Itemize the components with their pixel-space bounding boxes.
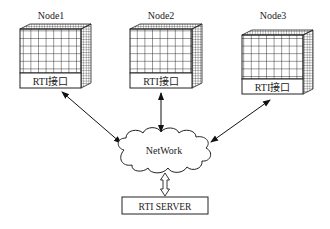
network-label: NetWork (146, 145, 182, 156)
arrow-node1-network (62, 92, 121, 143)
node1-top-face (20, 24, 91, 29)
node1: Node1 RTI接口 (20, 10, 91, 88)
node3-title: Node3 (260, 10, 287, 21)
node2-rti-interface-label: RTI接口 (143, 75, 179, 87)
node1-side-face (81, 24, 91, 88)
node3: Node3 RTI接口 (242, 10, 313, 94)
arrow-node3-network (211, 100, 270, 142)
node2-title: Node2 (148, 10, 175, 21)
rti-server: RTI SERVER (122, 197, 208, 214)
diagram-canvas: Node1 RTI接口 Node2 RTI接口 Node3 RTI接口 NetW… (0, 0, 330, 229)
node2-front-grid (130, 29, 192, 73)
node1-front-grid (20, 29, 81, 73)
node2-side-face (192, 24, 202, 88)
arrow-network-server (161, 173, 170, 196)
node3-top-face (242, 30, 313, 35)
node2: Node2 RTI接口 (130, 10, 202, 88)
node3-front-grid (242, 35, 303, 79)
rti-server-label: RTI SERVER (139, 202, 192, 212)
node1-rti-interface-label: RTI接口 (33, 75, 69, 87)
node3-rti-interface-label: RTI接口 (255, 81, 291, 93)
node1-title: Node1 (38, 10, 65, 21)
node3-side-face (303, 30, 313, 94)
network-cloud: NetWork (118, 128, 210, 173)
node2-top-face (130, 24, 202, 29)
